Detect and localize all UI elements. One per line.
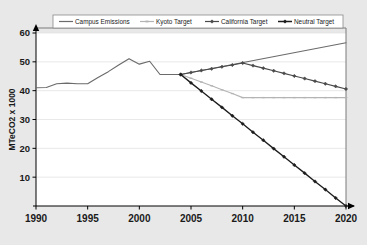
y-tick-label: 40 <box>19 85 30 96</box>
emissions-chart: 102030405060 199019952000200520102015202… <box>0 0 367 245</box>
chart-legend: Campus EmissionsKyoto TargetCalifornia T… <box>53 15 343 28</box>
x-tick-label: 1995 <box>77 213 100 224</box>
y-axis-label: MTeCO2 x 1000 <box>7 88 17 150</box>
y-tick-label: 20 <box>19 143 30 154</box>
x-tick-label: 1990 <box>25 213 48 224</box>
legend-label: Campus Emissions <box>75 18 130 26</box>
y-tick-label: 30 <box>19 114 30 125</box>
x-tick-label: 2015 <box>283 213 306 224</box>
legend-label: California Target <box>221 18 268 26</box>
x-tick-label: 2000 <box>128 213 151 224</box>
x-tick-label: 2010 <box>232 213 255 224</box>
x-tick-label: 2020 <box>335 213 358 224</box>
legend-label: Neutral Target <box>294 18 334 26</box>
y-tick-label: 10 <box>19 172 30 183</box>
y-tick-label: 50 <box>19 56 30 67</box>
x-tick-label: 2005 <box>180 213 203 224</box>
legend-label: Kyoto Target <box>156 18 192 26</box>
chart-canvas: 102030405060 199019952000200520102015202… <box>0 0 367 245</box>
y-tick-label: 60 <box>19 27 30 38</box>
